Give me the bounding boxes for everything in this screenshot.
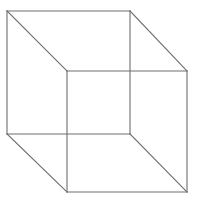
vertex-front-bottom-left	[64, 189, 70, 195]
vertex-back-bottom-right	[127, 131, 133, 137]
vertex-front-bottom-right	[184, 189, 190, 195]
cube-canvas	[0, 0, 199, 203]
vertex-back-top-left	[4, 8, 10, 14]
vertex-front-top-right	[184, 68, 190, 74]
vertex-back-top-right	[127, 8, 133, 14]
vertex-back-bottom-left	[4, 131, 10, 137]
vertex-front-top-left	[64, 68, 70, 74]
necker-cube-figure	[0, 0, 199, 203]
figure-background	[0, 0, 199, 203]
